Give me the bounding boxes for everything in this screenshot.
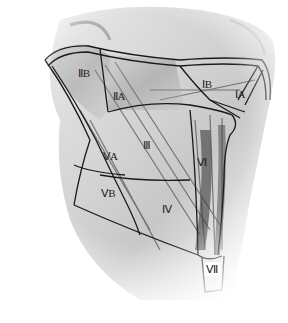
neck-levels-diagram: ⅡB ⅡA ⅠB ⅠA Ⅲ ⅤA ⅤB Ⅵ Ⅳ Ⅶ	[0, 0, 288, 323]
level-III-label: Ⅲ	[143, 139, 151, 152]
level-IIA-label: ⅡA	[113, 90, 125, 103]
level-IV-label: Ⅳ	[162, 203, 172, 216]
level-IB-label: ⅠB	[202, 78, 211, 91]
level-VA-label: ⅤA	[103, 150, 118, 163]
level-VII-label: Ⅶ	[204, 263, 220, 276]
neck-illustration	[0, 0, 288, 323]
level-VB-label: ⅤB	[101, 187, 115, 200]
level-VI-label: Ⅵ	[197, 156, 207, 169]
level-IIB-label: ⅡB	[78, 67, 89, 80]
level-IA-label: ⅠA	[235, 88, 245, 101]
